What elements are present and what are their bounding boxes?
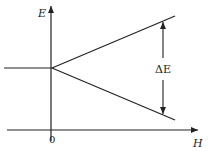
upper-branch-line [52,16,175,68]
delta-e-label: ΔE [155,63,171,76]
energy-splitting-diagram: E H 0 ΔE [0,0,208,151]
y-axis-label: E [37,7,46,20]
origin-label: 0 [49,134,55,145]
x-axis-label: H [192,137,203,150]
